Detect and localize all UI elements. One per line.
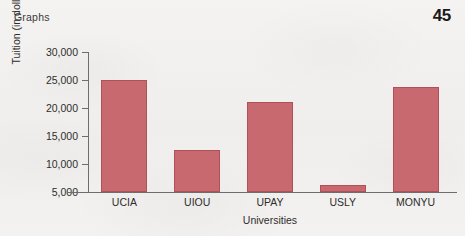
bar-usly [320, 185, 366, 192]
x-axis-line [67, 192, 457, 193]
y-axis-tick-label: 15,000 [0, 130, 78, 142]
bar-uiou [174, 150, 220, 192]
y-axis-tick-label: 10,000 [0, 158, 78, 170]
y-axis-tick-label: 25,000 [0, 74, 78, 86]
page-header: Graphs 45 [0, 0, 465, 34]
x-axis-tick-label: UCIA [112, 196, 137, 208]
page-number: 45 [433, 6, 451, 26]
x-axis-tick-labels: UCIAUIOUUPAYUSLYMONYU [88, 196, 452, 212]
bar-upay [247, 102, 293, 192]
x-axis-tick-label: USLY [329, 196, 356, 208]
bar-chart: Tuition (in dollars) 30,00025,00020,0001… [0, 34, 465, 236]
y-axis-tick-label: 20,000 [0, 102, 78, 114]
bar-series [88, 52, 452, 192]
y-axis-tick-label: 30,000 [0, 46, 78, 58]
x-axis-tick-label: UPAY [256, 196, 283, 208]
bar-monyu [393, 87, 439, 192]
x-axis-title: Universities [88, 214, 452, 226]
bar-ucia [101, 80, 147, 192]
x-axis-tick-label: MONYU [396, 196, 435, 208]
y-axis-tick-labels: 30,00025,00020,00015,00010,0005,000 [0, 34, 78, 236]
x-axis-tick-label: UIOU [184, 196, 210, 208]
